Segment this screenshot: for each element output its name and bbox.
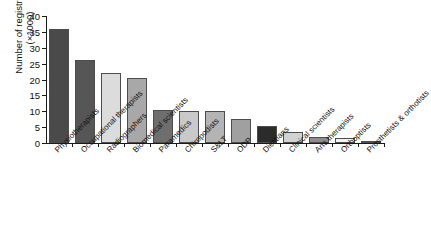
bar [49, 29, 68, 143]
y-axis-tick-label: 35 [29, 26, 40, 37]
y-axis-tick-label: 40 [29, 11, 40, 22]
y-axis-tick-label: 30 [29, 42, 40, 53]
x-axis-tick [176, 143, 177, 147]
x-axis-category-labels: PhysiotherapistsOccupational therapistsR… [46, 148, 384, 229]
x-axis-tick [332, 143, 333, 147]
y-axis-tick-label: 5 [35, 122, 40, 133]
y-axis-tick-label: 0 [35, 138, 40, 149]
x-axis-tick [358, 143, 359, 147]
x-axis-tick [280, 143, 281, 147]
x-axis-tick [98, 143, 99, 147]
y-axis-tick-label: 15 [29, 90, 40, 101]
x-axis-tick [306, 143, 307, 147]
y-axis-tick-label: 10 [29, 106, 40, 117]
y-axis-tick-label: 25 [29, 58, 40, 69]
x-axis-tick [384, 143, 385, 147]
x-axis-tick [228, 143, 229, 147]
y-axis-tick [42, 143, 46, 144]
x-axis-tick [202, 143, 203, 147]
x-axis-tick [254, 143, 255, 147]
x-axis-tick [72, 143, 73, 147]
y-axis-tick-label: 20 [29, 74, 40, 85]
x-axis-tick [124, 143, 125, 147]
y-axis-title-line-1: Number of registrants [13, 0, 24, 74]
x-axis-tick [150, 143, 151, 147]
